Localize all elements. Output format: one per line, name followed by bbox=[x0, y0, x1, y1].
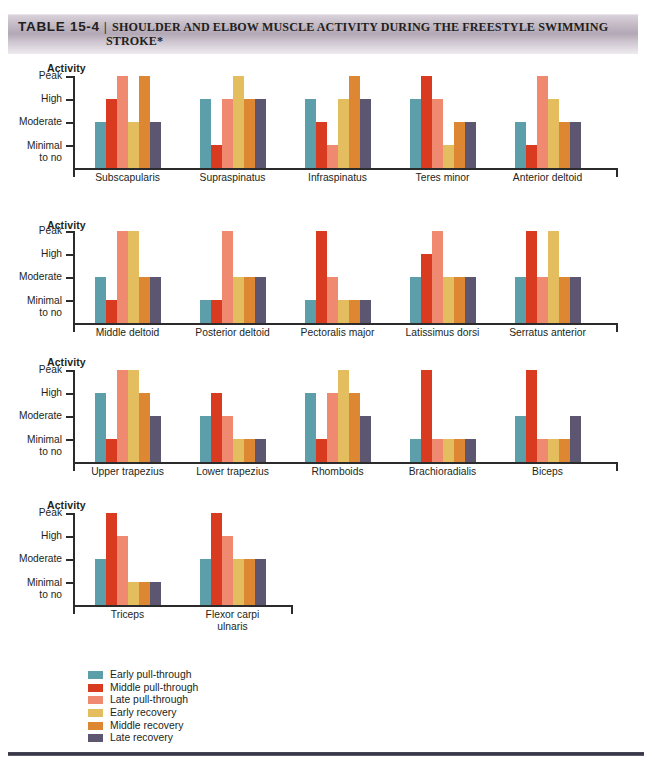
bar-group bbox=[95, 76, 161, 168]
bar bbox=[526, 145, 537, 168]
bar bbox=[338, 370, 349, 462]
tick-high-label: High bbox=[41, 93, 62, 105]
legend-swatch bbox=[88, 684, 103, 692]
tick-moderate-mark bbox=[66, 416, 75, 418]
bar-group bbox=[305, 231, 371, 323]
bar-group bbox=[200, 231, 266, 323]
bar bbox=[95, 559, 106, 605]
bar bbox=[454, 277, 465, 323]
legend-swatch bbox=[88, 696, 103, 704]
bar bbox=[95, 393, 106, 462]
legend-item: Late pull-through bbox=[88, 694, 198, 707]
legend-swatch bbox=[88, 734, 103, 742]
bar-group bbox=[410, 76, 476, 168]
tick-peak-label: Peak bbox=[39, 225, 62, 237]
table-number: TABLE 15-4 bbox=[18, 19, 100, 34]
bar bbox=[244, 99, 255, 168]
tick-moderate-label: Moderate bbox=[19, 271, 62, 283]
x-axis-end-cap bbox=[616, 323, 618, 332]
bar bbox=[200, 559, 211, 605]
tick-moderate-label: Moderate bbox=[19, 116, 62, 128]
legend-label: Middle pull-through bbox=[110, 682, 198, 694]
bar bbox=[410, 277, 421, 323]
bar bbox=[106, 99, 117, 168]
x-axis-line bbox=[73, 462, 618, 464]
bar bbox=[211, 300, 222, 323]
bar bbox=[244, 277, 255, 323]
bar bbox=[128, 370, 139, 462]
x-axis-line bbox=[73, 323, 618, 325]
tick-minimal-label: Minimalto no bbox=[27, 434, 62, 457]
bar bbox=[349, 393, 360, 462]
bar bbox=[117, 536, 128, 605]
bar bbox=[316, 122, 327, 168]
table-header-banner: TABLE 15-4|SHOULDER AND ELBOW MUSCLE ACT… bbox=[8, 14, 638, 54]
tick-moderate-label: Moderate bbox=[19, 553, 62, 565]
legend-label: Early pull-through bbox=[110, 669, 191, 681]
table-title-line1: SHOULDER AND ELBOW MUSCLE ACTIVITY DURIN… bbox=[112, 20, 608, 34]
bar bbox=[548, 439, 559, 462]
legend-label: Middle recovery bbox=[110, 720, 183, 732]
x-axis-end-cap bbox=[616, 168, 618, 177]
bar bbox=[305, 99, 316, 168]
bar bbox=[432, 439, 443, 462]
bar bbox=[410, 439, 421, 462]
tick-minimal-label: Minimalto no bbox=[27, 577, 62, 600]
bar bbox=[244, 559, 255, 605]
bar bbox=[200, 300, 211, 323]
bar bbox=[548, 99, 559, 168]
bar bbox=[128, 122, 139, 168]
bar bbox=[559, 122, 570, 168]
tick-peak-label: Peak bbox=[39, 364, 62, 376]
tick-minimal-mark bbox=[66, 582, 75, 584]
bar-group bbox=[200, 370, 266, 462]
bar-group bbox=[410, 370, 476, 462]
bar bbox=[526, 231, 537, 323]
bar bbox=[349, 76, 360, 168]
bar bbox=[537, 76, 548, 168]
tick-moderate-mark bbox=[66, 122, 75, 124]
bar bbox=[421, 76, 432, 168]
bar bbox=[327, 277, 338, 323]
bar bbox=[233, 76, 244, 168]
bar bbox=[211, 513, 222, 605]
x-axis-line bbox=[73, 168, 618, 170]
x-axis-line bbox=[73, 605, 293, 607]
bar bbox=[338, 99, 349, 168]
bar bbox=[570, 122, 581, 168]
bar bbox=[526, 370, 537, 462]
bar bbox=[432, 99, 443, 168]
bar bbox=[222, 536, 233, 605]
bar-group bbox=[95, 370, 161, 462]
bar bbox=[233, 559, 244, 605]
bar bbox=[537, 277, 548, 323]
bar bbox=[443, 145, 454, 168]
bar bbox=[106, 439, 117, 462]
tick-moderate-mark bbox=[66, 277, 75, 279]
legend-swatch bbox=[88, 709, 103, 717]
tick-peak-mark bbox=[66, 76, 75, 78]
bar bbox=[360, 300, 371, 323]
tick-high-mark bbox=[66, 393, 75, 395]
bar bbox=[548, 231, 559, 323]
legend-label: Late recovery bbox=[110, 732, 173, 744]
bar bbox=[200, 416, 211, 462]
tick-high-label: High bbox=[41, 248, 62, 260]
bottom-divider bbox=[8, 752, 644, 756]
tick-moderate-label: Moderate bbox=[19, 410, 62, 422]
bar bbox=[338, 300, 349, 323]
bar bbox=[559, 439, 570, 462]
legend-item: Middle recovery bbox=[88, 719, 198, 732]
bar bbox=[443, 277, 454, 323]
bar-group bbox=[305, 370, 371, 462]
bar bbox=[559, 277, 570, 323]
bar bbox=[244, 439, 255, 462]
bar bbox=[150, 582, 161, 605]
bar bbox=[139, 76, 150, 168]
legend-label: Late pull-through bbox=[110, 694, 188, 706]
tick-high-label: High bbox=[41, 387, 62, 399]
bar bbox=[305, 300, 316, 323]
bar bbox=[106, 513, 117, 605]
bar bbox=[465, 439, 476, 462]
chart-legend: Early pull-throughMiddle pull-throughLat… bbox=[88, 669, 198, 745]
